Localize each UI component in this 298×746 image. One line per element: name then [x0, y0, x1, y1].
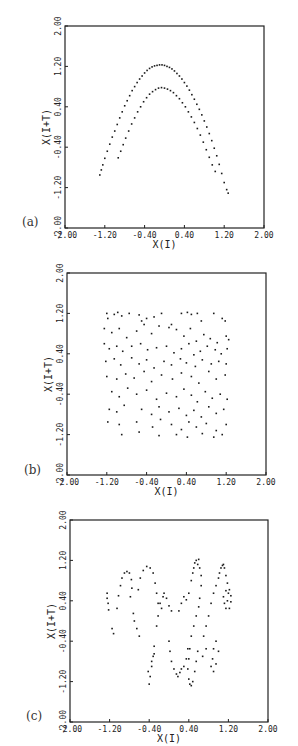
data-points — [104, 312, 230, 438]
x-tick-label: -1.20 — [93, 231, 117, 240]
chart-b: -2.00-1.20-0.400.401.202.00-2.00-1.20-0.… — [43, 263, 276, 497]
x-tick-label: 0.40 — [175, 231, 194, 240]
y-tick-label: 0.40 — [54, 97, 63, 116]
y-tick-label: -0.40 — [56, 382, 65, 406]
x-axis-title: X(I) — [157, 733, 181, 744]
plot-frame — [67, 273, 266, 475]
x-tick-label: -1.20 — [95, 478, 119, 487]
y-axis-title: X(I+T) — [43, 356, 54, 392]
y-tick-label: 1.20 — [54, 57, 63, 76]
plot-frame — [70, 520, 268, 722]
y-tick-label: -2.00 — [56, 463, 65, 487]
x-tick-label: 1.20 — [215, 231, 234, 240]
y-tick-label: -1.20 — [54, 175, 63, 199]
chart-a: -2.00-1.20-0.400.401.202.00-2.00-1.20-0.… — [41, 16, 274, 250]
plots-canvas: -2.00-1.20-0.400.401.202.00-2.00-1.20-0.… — [0, 0, 298, 746]
y-axis-title: X(I+T) — [41, 109, 52, 145]
x-axis-title: X(I) — [152, 239, 176, 250]
y-tick-label: -0.40 — [59, 629, 68, 653]
plot-frame — [65, 26, 264, 228]
y-tick-label: 2.00 — [59, 510, 68, 529]
y-tick-label: -2.00 — [59, 710, 68, 734]
y-tick-label: 2.00 — [54, 16, 63, 35]
y-tick-label: -1.20 — [59, 669, 68, 693]
data-points — [106, 559, 231, 687]
data-points — [99, 64, 229, 194]
x-tick-label: 2.00 — [258, 725, 277, 734]
y-tick-label: -0.40 — [54, 135, 63, 159]
y-tick-label: 0.40 — [59, 591, 68, 610]
y-tick-label: 1.20 — [59, 551, 68, 570]
y-axis-title: X(I+T) — [46, 603, 57, 639]
x-tick-label: 2.00 — [256, 478, 275, 487]
y-tick-label: 0.40 — [56, 344, 65, 363]
x-tick-label: 1.20 — [217, 478, 236, 487]
x-axis-title: X(I) — [154, 486, 178, 497]
x-tick-label: 2.00 — [254, 231, 273, 240]
y-tick-label: -1.20 — [56, 422, 65, 446]
y-tick-label: 1.20 — [56, 304, 65, 323]
x-tick-label: 1.20 — [219, 725, 238, 734]
x-tick-label: 0.40 — [179, 725, 198, 734]
x-tick-label: 0.40 — [177, 478, 196, 487]
chart-c: -2.00-1.20-0.400.401.202.00-2.00-1.20-0.… — [46, 510, 278, 744]
x-tick-label: -1.20 — [98, 725, 122, 734]
y-tick-label: 2.00 — [56, 263, 65, 282]
y-tick-label: -2.00 — [54, 216, 63, 240]
